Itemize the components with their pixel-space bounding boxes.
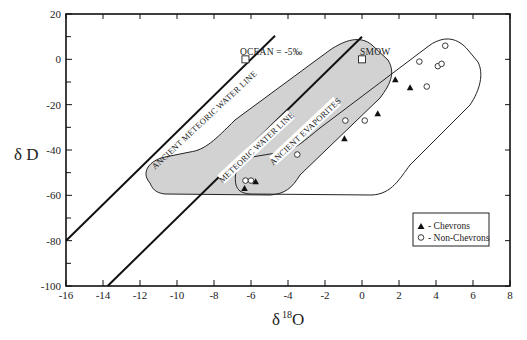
y-tick-label: -80 [46,235,61,247]
evaporite-region [146,40,392,195]
isotope-chart: ANCIENT METEORIC WATER LINE METEORIC WAT… [0,0,527,340]
legend-label-chevrons: - Chevrons [428,221,470,231]
y-tick-label: -60 [46,189,61,201]
non-chevron-point [362,118,368,124]
x-axis-title-delta: δ [272,310,280,329]
chevron-point [374,110,381,116]
ocean-label: OCEAN = -5‰ [240,47,303,57]
non-chevron-point [343,118,349,124]
y-tick-label: 20 [50,8,62,20]
non-chevron-point [442,43,448,49]
x-tick-label: 8 [507,289,513,301]
reference-square [242,56,249,63]
non-chevron-point [243,178,249,184]
x-tick-label: -4 [283,289,293,301]
y-tick-label: -40 [46,144,61,156]
non-chevron-point [294,152,300,158]
legend-label-non-chevrons: - Non-Chevrons [428,233,490,243]
x-axis-title-suffix: O [292,310,304,329]
x-tick-label: 4 [433,289,439,301]
non-chevron-point [417,59,423,65]
x-tick-label: 2 [396,289,402,301]
chevron-point [407,84,414,90]
chevron-point [392,76,399,82]
y-tick-label: -100 [41,280,62,292]
chevron-point [341,135,348,141]
x-tick-label: 0 [359,289,365,301]
y-tick-label: -20 [46,99,61,111]
legend: - Chevrons - Non-Chevrons [413,213,490,246]
non-chevron-point [424,84,430,90]
y-tick-label: 0 [56,53,62,65]
x-axis-title: δ18O [272,309,304,329]
x-tick-label: -8 [209,289,219,301]
non-chevron-point [248,178,254,184]
x-axis-title-sup: 18 [282,309,292,320]
x-tick-label: -12 [133,289,148,301]
x-tick-label: -14 [96,289,111,301]
x-tick-label: -10 [170,289,185,301]
x-tick-label: 6 [470,289,476,301]
non-chevron-point [439,61,445,67]
reference-square [359,56,366,63]
x-tick-label: -6 [246,289,256,301]
legend-circle-icon [418,235,424,241]
x-tick-label: -2 [320,289,329,301]
y-axis-title: δ D [14,145,39,164]
